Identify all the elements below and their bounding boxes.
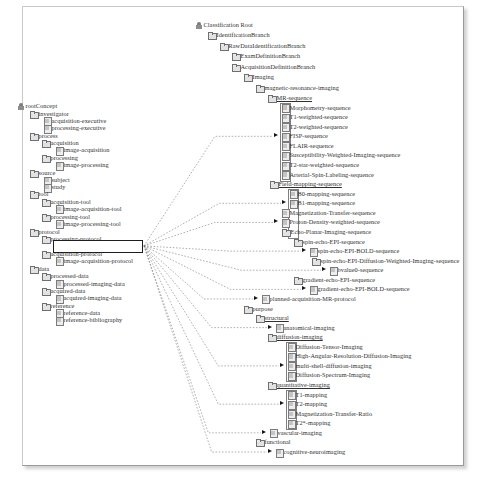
tree-node-planned-acquisition-mr-protocol[interactable]: planned-acquisition-MR-protocol	[262, 295, 356, 303]
folder-icon	[30, 133, 37, 139]
tree-node-identificationbranch[interactable]: IdentificationBranch	[208, 31, 270, 39]
leaf-icon	[276, 324, 282, 331]
tree-node-label: Diffusion-Tensor-Imaging	[296, 343, 363, 351]
tree-node-acquisitiondefinitionbranch[interactable]: AcquisitionDefinitionBranch	[232, 63, 315, 71]
tree-node-reference-bibliography[interactable]: reference-bibliography	[56, 316, 122, 324]
tree-node-functional[interactable]: functional	[256, 438, 291, 446]
mapping-arrowhead	[274, 133, 278, 137]
tree-node-classification-root[interactable]: Classification Root	[196, 21, 253, 29]
tree-node-cognitive-neuroimaging[interactable]: cognitive-neuroimaging	[276, 448, 345, 456]
folder-icon	[42, 214, 49, 220]
tree-node-arterial-spin-labeling-sequence[interactable]: Arterial-Spin-Labeling-sequence	[282, 171, 374, 179]
tree-node-t2-weighted-sequence[interactable]: T2-weighted-sequence	[282, 123, 348, 131]
leaf-icon	[290, 200, 296, 207]
tree-node-label: gradient-echo-EPI-BOLD-sequence	[318, 285, 410, 293]
tree-node-flair-sequence[interactable]: FLAIR-sequence	[282, 142, 334, 150]
folder-icon	[232, 64, 239, 70]
tree-node-examdefinitionbranch[interactable]: ExamDefinitionBranch	[232, 52, 300, 60]
tree-node-label: AcquisitionDefinitionBranch	[241, 63, 316, 71]
tree-node-magnetic-resonance-imaging[interactable]: magnetic-resonance-imaging	[256, 84, 339, 92]
tree-node-imaging[interactable]: Imaging	[244, 73, 274, 81]
tree-node-echo-planar-imaging-sequence[interactable]: Echo-Planar-Imaging-sequence	[282, 228, 371, 236]
tree-node-t2-star-weighted-sequence[interactable]: T2-star-weighted-sequence	[282, 161, 359, 169]
tree-node-purpose[interactable]: purpose	[244, 305, 273, 313]
tree-node-label: vascular-imaging	[278, 429, 322, 437]
tree-node-t1-weighted-sequence[interactable]: T1-weighted-sequence	[282, 113, 348, 121]
tree-node-label: ExamDefinitionBranch	[241, 52, 301, 60]
tree-node-high-angular-resolution-diffusion-imaging[interactable]: High-Angular-Resolution-Diffusion-Imagin…	[288, 352, 411, 360]
folder-icon	[282, 229, 289, 235]
tree-node-proton-density-weighted-sequence[interactable]: Proton-Density-weighted-sequence	[282, 218, 380, 226]
mapping-arrowhead	[282, 200, 286, 204]
leaf-icon	[282, 209, 288, 216]
tree-node-bvalue0-sequence[interactable]: bvalue0-sequence	[330, 266, 383, 274]
tree-node-label: T1-mapping	[296, 391, 328, 399]
tree-node-label: IdentificationBranch	[217, 31, 270, 39]
tree-node-image-processing-tool[interactable]: image-processing-tool	[56, 220, 121, 228]
tree-node-spin-echo-epi-diffusion-weighted-imaging-sequence[interactable]: spin-echo-EPI-Diffusion-Weighted-Imaging…	[312, 257, 459, 265]
tree-node-anatomical-imaging[interactable]: anatomical-imaging	[276, 324, 335, 332]
mapping-arrowhead	[280, 401, 284, 405]
tree-node-morphometry-sequence[interactable]: Morphometry-sequence	[282, 104, 351, 112]
tree-node-spin-echo-epi-bold-sequence[interactable]: spin-echo-EPI-BOLD-sequence	[310, 247, 399, 255]
tree-node-vascular-imaging[interactable]: vascular-imaging	[270, 429, 322, 437]
tree-node-label: structural	[265, 314, 289, 322]
leaf-icon	[56, 257, 62, 264]
folder-icon	[30, 191, 37, 197]
tree-node-label: Proton-Density-weighted-sequence	[290, 218, 380, 226]
tree-node-susceptibility-weighted-imaging-sequence[interactable]: Susceptibility-Weighted-Imaging-sequence	[282, 151, 400, 159]
tree-node-field-mapping-sequence[interactable]: Field-mapping-sequence	[270, 180, 342, 188]
folder-icon	[42, 273, 49, 279]
tree-node-gradient-echo-epi-sequence[interactable]: gradient-echo-EPI-sequence	[294, 276, 375, 284]
folder-icon	[30, 266, 37, 272]
tree-node-magnetization-transfer-ratio[interactable]: Magnetization-Transfer-Ratio	[288, 410, 372, 418]
tree-node-label: processing-executive	[52, 124, 106, 132]
tree-node-image-processing[interactable]: image-processing	[56, 161, 109, 169]
leaf-icon	[282, 114, 288, 121]
mapping-connector	[144, 246, 301, 289]
tree-node-diffusion-imaging[interactable]: diffusion-imaging	[268, 333, 323, 341]
leaf-icon	[262, 295, 268, 302]
tree-node-multi-shell-diffusion-imaging[interactable]: multi-shell-diffusion-imaging	[288, 362, 372, 370]
tree-node-label: MR-sequence	[277, 94, 313, 102]
leaf-icon	[282, 219, 288, 226]
tree-node-label: spin-echo-EPI-BOLD-sequence	[318, 247, 400, 255]
tree-node-label: image-acquisition-protocol	[64, 257, 134, 265]
tree-node-quantitative-imaging[interactable]: quantitative-imaging	[268, 381, 330, 389]
tree-node-t2-mapping[interactable]: T2*-mapping	[288, 419, 330, 427]
leaf-icon	[282, 162, 288, 169]
tree-node-b1-mapping-sequence[interactable]: B1-mapping-sequence	[290, 199, 355, 207]
tree-node-label: B1-mapping-sequence	[298, 199, 356, 207]
tree-node-label: purpose	[253, 305, 273, 313]
tree-node-structural[interactable]: structural	[256, 314, 289, 322]
tree-node-gradient-echo-epi-bold-sequence[interactable]: gradient-echo-EPI-BOLD-sequence	[310, 285, 410, 293]
mapping-arrowhead	[262, 430, 266, 434]
mapping-connector	[144, 246, 253, 299]
leaf-icon	[56, 317, 62, 324]
leaf-icon	[330, 267, 336, 274]
tree-node-rawdataidentificationbranch[interactable]: RawDataIdentificationBranch	[220, 42, 305, 50]
tree-node-label: multi-shell-diffusion-imaging	[296, 362, 372, 370]
tree-node-diffusion-spectrum-imaging[interactable]: Diffusion-Spectrum-Imaging	[288, 371, 370, 379]
tree-node-t1-mapping[interactable]: T1-mapping	[288, 391, 327, 399]
tree-node-label: T2-mapping	[296, 400, 328, 408]
tree-node-label: RawDataIdentificationBranch	[229, 42, 306, 50]
mapping-connector	[144, 203, 281, 246]
tree-node-spin-echo-epi-sequence[interactable]: spin-echo-EPI-sequence	[294, 238, 365, 246]
tree-node-diffusion-tensor-imaging[interactable]: Diffusion-Tensor-Imaging	[288, 343, 363, 351]
tree-node-label: T2*-mapping	[296, 419, 331, 427]
leaf-icon	[288, 391, 294, 398]
leaf-icon	[288, 420, 294, 427]
tree-node-fisp-sequence[interactable]: FISP-sequence	[282, 132, 328, 140]
mapping-connector	[144, 246, 301, 251]
tree-node-label: spin-echo-EPI-Diffusion-Weighted-Imaging…	[321, 257, 460, 265]
tree-node-magnetization-transfer-sequence[interactable]: Magnetization-Transfer-sequence	[282, 209, 376, 217]
tree-node-label: B0-mapping-sequence	[298, 190, 356, 198]
tree-node-t2-mapping[interactable]: T2-mapping	[288, 400, 327, 408]
tree-node-mr-sequence[interactable]: MR-sequence	[268, 94, 312, 102]
tree-node-image-acquisition-protocol[interactable]: image-acquisition-protocol	[56, 257, 133, 265]
tree-node-b0-mapping-sequence[interactable]: B0-mapping-sequence	[290, 190, 355, 198]
root-icon	[18, 103, 24, 110]
tree-node-label: Diffusion-Spectrum-Imaging	[296, 371, 371, 379]
leaf-icon	[288, 401, 294, 408]
